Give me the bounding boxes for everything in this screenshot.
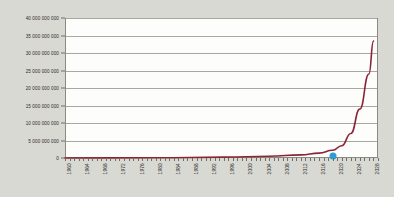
x-tick-label: 2028 bbox=[375, 163, 380, 174]
x-tick-mark bbox=[97, 158, 98, 161]
y-tick-label: 10 000 000 000 bbox=[26, 121, 59, 126]
x-tick-mark bbox=[283, 158, 284, 161]
x-tick-mark bbox=[147, 158, 148, 161]
x-tick-label: 2024 bbox=[357, 163, 362, 174]
x-tick-mark bbox=[206, 158, 207, 161]
x-tick-mark bbox=[178, 158, 179, 161]
x-tick-mark bbox=[256, 158, 257, 161]
x-tick-mark bbox=[369, 158, 370, 161]
y-tick-label: 25 000 000 000 bbox=[26, 68, 59, 73]
x-tick-mark bbox=[296, 158, 297, 161]
x-tick-mark bbox=[70, 158, 71, 161]
x-tick-mark bbox=[355, 158, 356, 161]
y-axis: 05 000 000 00010 000 000 00015 000 000 0… bbox=[0, 0, 65, 158]
x-tick-label: 1996 bbox=[230, 163, 235, 174]
x-tick-mark bbox=[246, 158, 247, 161]
x-tick-mark bbox=[215, 158, 216, 161]
x-tick-mark bbox=[228, 158, 229, 161]
x-tick-mark bbox=[106, 158, 107, 161]
x-tick-mark bbox=[101, 158, 102, 161]
x-tick-mark bbox=[233, 158, 234, 161]
x-tick-mark bbox=[142, 158, 143, 161]
x-tick-mark bbox=[224, 158, 225, 161]
x-tick-mark bbox=[314, 158, 315, 161]
x-tick-mark bbox=[269, 158, 270, 161]
y-tick-label: 35 000 000 000 bbox=[26, 33, 59, 38]
x-tick-mark bbox=[265, 158, 266, 161]
x-tick-mark bbox=[219, 158, 220, 161]
x-tick-mark bbox=[373, 158, 374, 161]
x-tick-mark bbox=[378, 158, 379, 161]
x-tick-mark bbox=[165, 158, 166, 161]
x-tick-mark bbox=[169, 158, 170, 161]
x-tick-mark bbox=[197, 158, 198, 161]
x-tick-mark bbox=[110, 158, 111, 161]
x-tick-mark bbox=[360, 158, 361, 161]
x-tick-mark bbox=[65, 158, 66, 161]
x-tick-label: 1964 bbox=[85, 163, 90, 174]
x-tick-mark bbox=[260, 158, 261, 161]
x-tick-mark bbox=[319, 158, 320, 161]
x-tick-mark bbox=[342, 158, 343, 161]
x-tick-mark bbox=[88, 158, 89, 161]
x-tick-mark bbox=[210, 158, 211, 161]
x-tick-mark bbox=[242, 158, 243, 161]
x-tick-mark bbox=[174, 158, 175, 161]
y-tick-label: 20 000 000 000 bbox=[26, 86, 59, 91]
x-tick-mark bbox=[305, 158, 306, 161]
x-tick-mark bbox=[115, 158, 116, 161]
y-tick-label: 0 bbox=[56, 156, 59, 161]
x-tick-label: 2008 bbox=[285, 163, 290, 174]
x-tick-mark bbox=[346, 158, 347, 161]
x-tick-label: 1984 bbox=[176, 163, 181, 174]
x-tick-label: 2004 bbox=[267, 163, 272, 174]
x-tick-mark bbox=[133, 158, 134, 161]
x-tick-mark bbox=[351, 158, 352, 161]
y-tick-label: 5 000 000 000 bbox=[28, 138, 59, 143]
x-tick-label: 1968 bbox=[103, 163, 108, 174]
x-tick-label: 1992 bbox=[212, 163, 217, 174]
x-tick-mark bbox=[292, 158, 293, 161]
x-tick-mark bbox=[201, 158, 202, 161]
x-tick-mark bbox=[328, 158, 329, 161]
x-tick-label: 1976 bbox=[140, 163, 145, 174]
x-tick-mark bbox=[364, 158, 365, 161]
x-tick-label: 2012 bbox=[303, 163, 308, 174]
x-tick-mark bbox=[324, 158, 325, 161]
x-tick-label: 1972 bbox=[121, 163, 126, 174]
x-tick-mark bbox=[251, 158, 252, 161]
x-tick-mark bbox=[119, 158, 120, 161]
x-tick-mark bbox=[278, 158, 279, 161]
x-tick-mark bbox=[183, 158, 184, 161]
x-tick-label: 1988 bbox=[194, 163, 199, 174]
x-tick-mark bbox=[151, 158, 152, 161]
x-tick-label: 1960 bbox=[67, 163, 72, 174]
x-tick-mark bbox=[92, 158, 93, 161]
x-tick-mark bbox=[124, 158, 125, 161]
x-tick-mark bbox=[301, 158, 302, 161]
y-tick-label: 30 000 000 000 bbox=[26, 51, 59, 56]
x-tick-mark bbox=[160, 158, 161, 161]
y-tick-label: 15 000 000 000 bbox=[26, 103, 59, 108]
chart-container: 05 000 000 00010 000 000 00015 000 000 0… bbox=[0, 0, 394, 197]
x-tick-mark bbox=[79, 158, 80, 161]
x-tick-mark bbox=[187, 158, 188, 161]
x-tick-label: 2020 bbox=[339, 163, 344, 174]
data-series-line bbox=[65, 18, 378, 158]
x-tick-label: 1980 bbox=[158, 163, 163, 174]
x-tick-mark bbox=[138, 158, 139, 161]
x-tick-mark bbox=[337, 158, 338, 161]
x-tick-mark bbox=[237, 158, 238, 161]
x-tick-mark bbox=[333, 158, 334, 161]
x-tick-mark bbox=[287, 158, 288, 161]
y-tick-label: 40 000 000 000 bbox=[26, 16, 59, 21]
series-path bbox=[65, 41, 373, 158]
x-tick-mark bbox=[129, 158, 130, 161]
x-tick-mark bbox=[310, 158, 311, 161]
x-tick-mark bbox=[156, 158, 157, 161]
x-tick-label: 2000 bbox=[248, 163, 253, 174]
x-tick-mark bbox=[192, 158, 193, 161]
x-tick-mark bbox=[74, 158, 75, 161]
x-tick-mark bbox=[274, 158, 275, 161]
x-tick-label: 2016 bbox=[321, 163, 326, 174]
